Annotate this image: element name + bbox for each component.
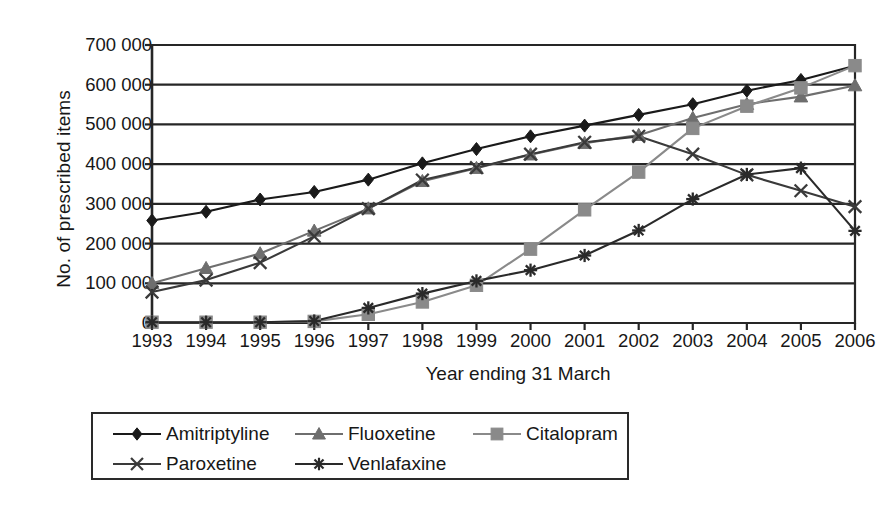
legend-label: Venlafaxine — [348, 453, 446, 475]
square-marker — [632, 166, 644, 178]
data-point-marker-x — [686, 148, 699, 161]
chart-legend: AmitriptylineFluoxetineCitalopramParoxet… — [91, 412, 629, 480]
data-point-marker-square — [741, 100, 753, 112]
diamond-marker — [309, 185, 319, 198]
series-line-paroxetine — [152, 136, 855, 292]
square-marker — [741, 100, 753, 112]
diamond-marker — [201, 205, 211, 218]
data-point-marker-asterisk — [740, 168, 753, 181]
square-marker — [687, 122, 699, 134]
data-point-marker-diamond — [742, 84, 752, 97]
data-point-marker-asterisk — [524, 264, 537, 277]
square-marker — [849, 59, 861, 71]
data-point-marker-square — [491, 428, 503, 440]
legend-item-fluoxetine[interactable]: Fluoxetine — [293, 419, 436, 449]
square-marker — [491, 428, 503, 440]
data-point-marker-asterisk — [308, 314, 321, 327]
series-line-venlafaxine — [152, 168, 855, 322]
data-point-marker-diamond — [201, 205, 211, 218]
data-point-marker-asterisk — [632, 224, 645, 237]
legend-swatch-x — [111, 454, 163, 474]
data-point-marker-square — [795, 82, 807, 94]
legend-row: ParoxetineVenlafaxine — [93, 449, 627, 479]
data-point-marker-diamond — [363, 173, 373, 186]
data-point-marker-diamond — [147, 214, 157, 227]
data-point-marker-square — [578, 204, 590, 216]
data-point-marker-diamond — [633, 108, 643, 121]
data-point-marker-diamond — [525, 130, 535, 143]
legend-label: Paroxetine — [166, 453, 257, 475]
legend-label: Citalopram — [526, 423, 618, 445]
diamond-marker — [742, 84, 752, 97]
legend-swatch-diamond — [111, 424, 163, 444]
diamond-marker — [633, 108, 643, 121]
legend-swatch-square — [471, 424, 523, 444]
square-marker — [578, 204, 590, 216]
data-point-marker-asterisk — [254, 316, 267, 329]
square-marker — [795, 82, 807, 94]
data-point-marker-square — [687, 122, 699, 134]
diamond-marker — [417, 157, 427, 170]
data-point-marker-diamond — [579, 119, 589, 132]
diamond-marker — [147, 214, 157, 227]
data-point-marker-asterisk — [470, 274, 483, 287]
data-point-marker-asterisk — [145, 316, 158, 329]
legend-swatch-asterisk — [293, 454, 345, 474]
legend-row: AmitriptylineFluoxetineCitalopram — [93, 419, 627, 449]
data-point-marker-diamond — [688, 98, 698, 111]
data-point-marker-square — [524, 243, 536, 255]
prescription-trend-chart: No. of prescribed items 0100 000200 0003… — [0, 0, 878, 508]
legend-label: Amitriptyline — [166, 423, 269, 445]
legend-item-citalopram[interactable]: Citalopram — [471, 419, 618, 449]
data-point-marker-asterisk — [313, 458, 326, 471]
data-point-marker-asterisk — [199, 316, 212, 329]
data-point-marker-asterisk — [794, 162, 807, 175]
diamond-marker — [471, 143, 481, 156]
diamond-marker — [525, 130, 535, 143]
data-point-marker-asterisk — [848, 224, 861, 237]
legend-item-amitriptyline[interactable]: Amitriptyline — [111, 419, 269, 449]
diamond-marker — [579, 119, 589, 132]
legend-item-venlafaxine[interactable]: Venlafaxine — [293, 449, 446, 479]
data-point-marker-diamond — [309, 185, 319, 198]
diamond-marker — [688, 98, 698, 111]
data-point-marker-diamond — [132, 428, 142, 440]
data-point-marker-square — [632, 166, 644, 178]
legend-item-paroxetine[interactable]: Paroxetine — [111, 449, 257, 479]
data-point-marker-asterisk — [578, 249, 591, 262]
data-point-marker-square — [849, 59, 861, 71]
data-point-marker-diamond — [471, 143, 481, 156]
diamond-marker — [132, 428, 142, 440]
data-point-marker-diamond — [417, 157, 427, 170]
data-point-marker-x — [795, 184, 808, 197]
legend-swatch-triangle — [293, 424, 345, 444]
data-point-marker-asterisk — [362, 301, 375, 314]
data-point-marker-asterisk — [416, 287, 429, 300]
legend-label: Fluoxetine — [348, 423, 436, 445]
diamond-marker — [363, 173, 373, 186]
square-marker — [524, 243, 536, 255]
data-point-marker-asterisk — [686, 192, 699, 205]
